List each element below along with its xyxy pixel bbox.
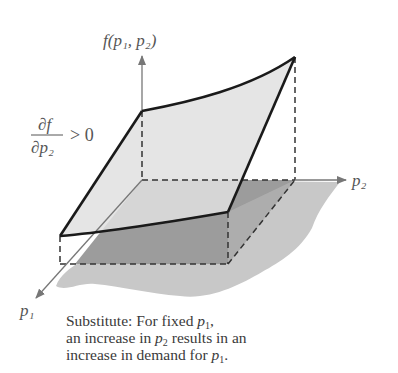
- derivative-numerator: ∂f: [38, 115, 53, 134]
- caption-line-1: Substitute: For fixed p1,: [66, 312, 214, 329]
- caption-line-2: an increase in p2 results in an: [66, 329, 386, 346]
- vertical-axis-label: f(p₁, p₂): [103, 31, 157, 50]
- derivative-denominator: ∂p₂: [31, 138, 54, 157]
- derivative-relation: > 0: [70, 125, 94, 145]
- caption: Substitute: For fixed p1, an increase in…: [66, 312, 386, 363]
- partial-derivative-annotation: ∂f ∂p₂ > 0: [31, 115, 94, 157]
- p1-axis-label: p₁: [19, 301, 34, 320]
- p2-axis-label: p₂: [351, 171, 367, 190]
- caption-line-3: increase in demand for p1.: [66, 346, 386, 363]
